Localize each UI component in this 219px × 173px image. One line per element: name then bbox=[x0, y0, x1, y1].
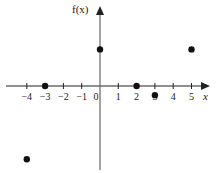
data-point bbox=[97, 46, 103, 52]
x-axis-label: x bbox=[202, 90, 208, 102]
data-point bbox=[152, 92, 158, 98]
x-tick-label: 0 bbox=[94, 91, 99, 102]
data-point bbox=[133, 83, 139, 89]
data-point bbox=[188, 46, 194, 52]
x-tick-label: −1 bbox=[76, 91, 87, 102]
y-axis-label: f(x) bbox=[72, 3, 89, 16]
x-tick-label: −4 bbox=[21, 91, 32, 102]
x-axis-arrow-icon bbox=[201, 82, 210, 90]
data-point bbox=[24, 156, 30, 162]
axes bbox=[6, 6, 210, 170]
data-point bbox=[42, 83, 48, 89]
x-tick-label: −2 bbox=[58, 91, 69, 102]
x-tick-label: 5 bbox=[189, 91, 194, 102]
x-tick-label: 2 bbox=[134, 91, 139, 102]
x-tick-label: −3 bbox=[40, 91, 51, 102]
x-tick-label: 4 bbox=[171, 91, 176, 102]
data-points bbox=[24, 46, 195, 162]
y-axis-arrow-icon bbox=[96, 6, 104, 15]
x-tick-label: 1 bbox=[116, 91, 121, 102]
scatter-plot: −4−3−2−1012345 x f(x) bbox=[0, 0, 219, 173]
